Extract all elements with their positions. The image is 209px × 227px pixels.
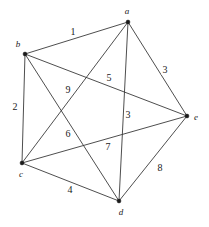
graph-edge-cd <box>22 163 119 201</box>
edge-weight-ba: 1 <box>70 27 77 37</box>
vertex-label-c: c <box>19 170 23 179</box>
graph-canvas <box>0 0 209 227</box>
graph-edge-de <box>119 116 187 201</box>
graph-edge-bc <box>22 54 25 163</box>
graph-edge-ce <box>22 116 187 163</box>
graph-vertex-e <box>185 114 189 118</box>
graph-vertex-a <box>126 20 130 24</box>
edge-weight-bd: 6 <box>65 129 72 139</box>
edge-weight-ae: 3 <box>162 65 169 75</box>
graph-vertex-b <box>23 52 27 56</box>
graph-edge-ae <box>128 22 187 116</box>
vertex-label-b: b <box>16 40 21 49</box>
edge-weight-ce: 7 <box>105 142 112 152</box>
graph-edge-ba <box>25 22 128 54</box>
edge-weight-de: 8 <box>157 163 164 173</box>
graph-figure: abcde 1234567893 <box>0 0 209 227</box>
edge-weight-ad: 3 <box>125 110 132 120</box>
vertex-label-d: d <box>119 208 124 217</box>
graph-edge-ac <box>22 22 128 163</box>
vertex-label-e: e <box>194 113 198 122</box>
edge-weight-be: 9 <box>65 85 72 95</box>
edges-group <box>22 22 187 201</box>
graph-vertex-c <box>20 161 24 165</box>
edge-weight-cd: 4 <box>67 185 74 195</box>
vertex-label-a: a <box>125 7 130 16</box>
edge-weight-ac: 5 <box>106 73 113 83</box>
edge-weight-bc: 2 <box>12 102 19 112</box>
graph-vertex-d <box>117 199 121 203</box>
